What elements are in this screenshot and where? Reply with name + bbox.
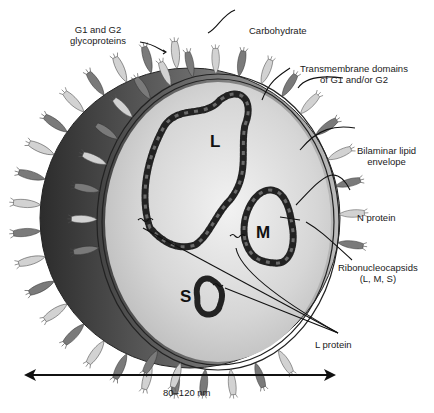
glycoprotein-spike-icon xyxy=(14,167,47,183)
glycoprotein-spike-icon xyxy=(24,278,56,299)
glycoprotein-spike-icon xyxy=(82,67,107,98)
label-ribonucleocapsids: Ribonucleocapsids (L, M, S) xyxy=(338,262,418,284)
glycoprotein-spike-icon xyxy=(334,175,365,190)
glycoprotein-spike-icon xyxy=(9,227,41,238)
glycoprotein-spike-icon xyxy=(59,87,87,115)
label-lipid-envelope-line2: envelope xyxy=(357,156,416,167)
glycoprotein-spike-icon xyxy=(298,89,324,116)
glycoprotein-spike-icon xyxy=(275,348,297,378)
virion-diagram: L M S xyxy=(0,0,434,413)
segment-s-letter: S xyxy=(180,287,191,306)
glycoprotein-spike-icon xyxy=(227,369,238,399)
label-transmembrane-line2: of G1 and/or G2 xyxy=(300,74,408,85)
glycoprotein-spike-icon xyxy=(24,137,56,158)
label-glycoproteins-line2: glycoproteins xyxy=(70,35,126,46)
segment-l-letter: L xyxy=(210,132,220,151)
label-glycoproteins: G1 and G2 glycoproteins xyxy=(70,24,126,46)
glycoprotein-spike-icon xyxy=(314,114,343,138)
glycoprotein-spike-icon xyxy=(14,253,47,269)
segment-m-letter: M xyxy=(256,223,270,242)
scale-bar-label: 80–120 nm xyxy=(163,387,211,398)
glycoprotein-spike-icon xyxy=(82,338,107,369)
glycoprotein-spike-icon xyxy=(235,46,248,77)
label-carbohydrate: Carbohydrate xyxy=(249,25,307,36)
glycoprotein-spike-icon xyxy=(9,198,41,209)
label-n-protein: N protein xyxy=(357,212,396,223)
glycoprotein-spike-icon xyxy=(39,110,70,135)
glycoprotein-spike-icon xyxy=(109,352,130,384)
glycoprotein-spike-icon xyxy=(139,42,155,75)
glycoprotein-spike-icon xyxy=(170,37,181,69)
glycoprotein-spike-icon xyxy=(337,239,367,251)
label-transmembrane: Transmembrane domains of G1 and/or G2 xyxy=(300,63,408,85)
label-glycoproteins-line1: G1 and G2 xyxy=(70,24,126,35)
glycoprotein-spike-icon xyxy=(59,321,87,349)
label-ribonucleocapsids-line1: Ribonucleocapsids xyxy=(338,262,418,273)
leader-carbohydrate xyxy=(208,10,235,33)
glycoprotein-spike-icon xyxy=(252,362,269,393)
glycoprotein-spike-icon xyxy=(326,143,356,163)
glycoprotein-spike-icon xyxy=(39,301,70,326)
label-l-protein: L protein xyxy=(315,339,352,350)
label-lipid-envelope: Bilaminar lipid envelope xyxy=(357,145,416,167)
label-ribonucleocapsids-line2: (L, M, S) xyxy=(338,273,418,284)
glycoprotein-spike-icon xyxy=(109,52,130,84)
label-lipid-envelope-line1: Bilaminar lipid xyxy=(357,145,416,156)
label-transmembrane-line1: Transmembrane domains xyxy=(300,63,408,74)
